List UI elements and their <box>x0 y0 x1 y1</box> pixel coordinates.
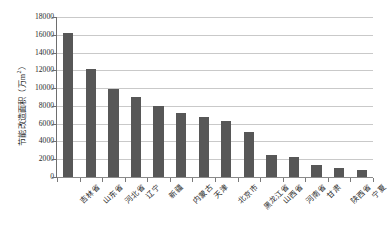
x-axis-category-label: 山东省 <box>102 183 125 206</box>
x-axis-tick-mark <box>350 178 351 182</box>
bar <box>176 113 186 177</box>
bar <box>244 132 254 177</box>
bar <box>357 170 367 177</box>
bar <box>153 106 163 177</box>
bar <box>311 165 321 177</box>
x-axis-tick-mark <box>215 178 216 182</box>
bar <box>334 168 344 177</box>
bar <box>289 157 299 177</box>
x-axis-tick-marks <box>57 178 373 182</box>
y-axis-tick-label: 6000 <box>24 120 54 128</box>
y-axis-title-superscript: 2 <box>16 70 22 73</box>
bars-layer <box>57 17 373 177</box>
x-axis-tick-mark <box>238 178 239 182</box>
bar <box>108 89 118 177</box>
bar <box>266 155 276 177</box>
y-axis-tick-label: 14000 <box>24 49 54 57</box>
bar <box>63 33 73 177</box>
y-axis-tick-label: 0 <box>24 173 54 181</box>
x-axis-tick-mark <box>102 178 103 182</box>
y-axis-tick-label: 12000 <box>24 66 54 74</box>
y-axis-tick-label: 2000 <box>24 155 54 163</box>
x-axis-tick-mark <box>125 178 126 182</box>
x-axis-category-label: 河南省 <box>305 183 328 206</box>
x-axis-category-label: 新疆 <box>167 183 184 200</box>
x-axis-category-label: 宁夏 <box>370 183 387 200</box>
x-axis-category-label: 甘肃 <box>325 183 342 200</box>
bar <box>221 121 231 177</box>
plot-area <box>57 17 373 177</box>
x-axis-tick-mark <box>80 178 81 182</box>
bar <box>199 117 209 177</box>
x-axis-tick-mark <box>192 178 193 182</box>
x-axis-tick-mark <box>260 178 261 182</box>
x-axis-tick-mark <box>328 178 329 182</box>
x-axis-category-label: 北京市 <box>237 183 260 206</box>
x-axis-tick-mark <box>147 178 148 182</box>
y-axis-tick-label: 10000 <box>24 84 54 92</box>
x-axis-category-label: 内蒙古 <box>192 183 215 206</box>
x-axis-category-labels: 吉林省山东省河北省辽宁新疆内蒙古天津北京市黑龙江省山西省河南省甘肃陕西省宁夏 <box>57 183 373 239</box>
x-axis-category-label: 辽宁 <box>145 183 162 200</box>
y-axis-tick-label: 16000 <box>24 31 54 39</box>
x-axis-tick-mark <box>373 178 374 182</box>
x-axis-category-label: 吉林省 <box>79 183 102 206</box>
x-axis-category-label: 天津 <box>212 183 229 200</box>
y-axis-tick-label: 18000 <box>24 13 54 21</box>
x-axis-category-label: 陕西省 <box>350 183 373 206</box>
y-axis-tick-label: 4000 <box>24 137 54 145</box>
bar <box>131 97 141 177</box>
bar <box>86 69 96 177</box>
x-axis-tick-mark <box>170 178 171 182</box>
y-axis-tick-label: 8000 <box>24 102 54 110</box>
y-axis-tick-labels: 0200040006000800010000120001400016000180… <box>24 17 54 177</box>
x-axis-tick-mark <box>57 178 58 182</box>
x-axis-tick-mark <box>305 178 306 182</box>
